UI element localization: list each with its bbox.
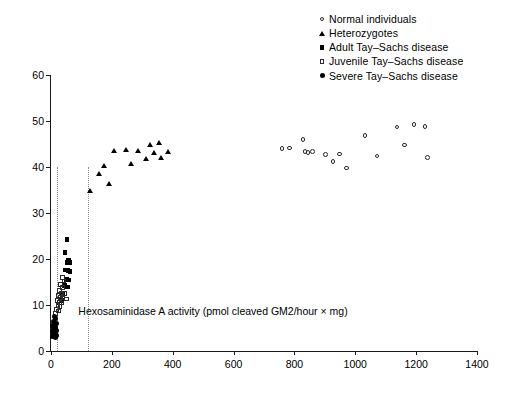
- y-tick: [46, 213, 50, 214]
- x-tick-label: 400: [164, 359, 182, 370]
- x-tick: [234, 351, 235, 355]
- y-tick-label: 30: [32, 208, 44, 219]
- data-point-filled-square: [65, 237, 70, 242]
- y-tick: [46, 259, 50, 260]
- legend-item-label: Heterozygotes: [329, 28, 398, 39]
- data-point-filled-triangle: [87, 188, 93, 193]
- data-point-open-square: [64, 297, 69, 302]
- x-axis-line: [50, 351, 477, 352]
- chart-container: Normal individualsHeterozygotesAdult Tay…: [0, 0, 509, 414]
- y-tick-label: 10: [32, 300, 44, 311]
- data-point-open-circle: [425, 155, 430, 160]
- data-point-open-circle: [301, 137, 306, 142]
- filled-triangle-icon: [315, 31, 329, 36]
- data-point-filled-triangle: [156, 140, 162, 145]
- data-point-filled-triangle: [128, 161, 134, 166]
- x-tick: [51, 351, 52, 355]
- data-point-filled-square: [66, 278, 71, 283]
- x-tick: [173, 351, 174, 355]
- data-point-filled-triangle: [165, 149, 171, 154]
- data-point-filled-triangle: [96, 171, 102, 176]
- data-point-filled-triangle: [111, 148, 117, 153]
- data-point-filled-triangle: [143, 156, 149, 161]
- data-point-filled-triangle: [151, 150, 157, 155]
- legend-item-label: Adult Tay–Sachs disease: [329, 42, 448, 53]
- y-tick: [46, 75, 50, 76]
- x-tick: [416, 351, 417, 355]
- data-point-filled-triangle: [147, 142, 153, 147]
- data-point-open-circle: [310, 149, 315, 154]
- y-tick: [46, 121, 50, 122]
- legend-item[interactable]: Heterozygotes: [315, 26, 463, 40]
- data-point-open-circle: [412, 122, 417, 127]
- legend-item[interactable]: Juvenile Tay–Sachs disease: [315, 55, 463, 69]
- x-tick: [112, 351, 113, 355]
- x-tick: [355, 351, 356, 355]
- x-tick-label: 0: [48, 359, 54, 370]
- data-point-open-circle: [402, 143, 407, 148]
- x-tick-label: 800: [286, 359, 304, 370]
- data-point-filled-triangle: [158, 155, 164, 160]
- data-point-open-circle: [375, 154, 380, 159]
- x-tick-label: 600: [225, 359, 243, 370]
- y-tick: [46, 167, 50, 168]
- y-tick-label: 60: [32, 70, 44, 81]
- chart-legend: Normal individualsHeterozygotesAdult Tay…: [315, 12, 463, 83]
- data-point-open-circle: [363, 133, 368, 138]
- reference-line-vertical: [88, 167, 89, 351]
- x-tick-label: 1400: [465, 359, 488, 370]
- data-point-filled-triangle: [123, 147, 129, 152]
- data-point-open-circle: [323, 152, 328, 157]
- data-point-open-circle: [344, 166, 349, 171]
- open-square-icon: [315, 59, 329, 64]
- y-tick-label: 20: [32, 254, 44, 265]
- open-circle-icon: [315, 17, 329, 22]
- x-axis-label: Hexosaminidase A activity (pmol cleaved …: [78, 305, 347, 317]
- legend-item-label: Juvenile Tay–Sachs disease: [329, 56, 463, 67]
- x-tick: [477, 351, 478, 355]
- data-point-open-circle: [337, 152, 342, 157]
- data-point-filled-square: [65, 285, 70, 290]
- data-point-filled-square: [68, 269, 73, 274]
- y-tick-label: 50: [32, 116, 44, 127]
- y-tick-label: 40: [32, 162, 44, 173]
- data-point-filled-triangle: [106, 181, 112, 186]
- x-tick-label: 200: [103, 359, 121, 370]
- filled-square-icon: [315, 45, 329, 50]
- data-point-open-circle: [287, 146, 292, 151]
- y-axis-line: [50, 75, 51, 352]
- x-tick-label: 1200: [404, 359, 427, 370]
- data-point-filled-square: [67, 260, 72, 265]
- x-tick: [294, 351, 295, 355]
- legend-item[interactable]: Normal individuals: [315, 12, 463, 26]
- data-point-filled-square: [63, 250, 68, 255]
- data-point-open-circle: [423, 124, 428, 129]
- data-point-filled-triangle: [101, 163, 107, 168]
- data-point-filled-circle: [53, 335, 58, 340]
- legend-item[interactable]: Adult Tay–Sachs disease: [315, 40, 463, 54]
- y-tick-label: 0: [38, 346, 44, 357]
- x-tick-label: 1000: [344, 359, 367, 370]
- data-point-open-circle: [280, 146, 285, 151]
- data-point-open-circle: [395, 125, 400, 130]
- y-tick: [46, 305, 50, 306]
- y-tick: [46, 351, 50, 352]
- data-point-open-circle: [331, 159, 336, 164]
- data-point-filled-triangle: [135, 148, 141, 153]
- legend-item-label: Normal individuals: [329, 14, 417, 25]
